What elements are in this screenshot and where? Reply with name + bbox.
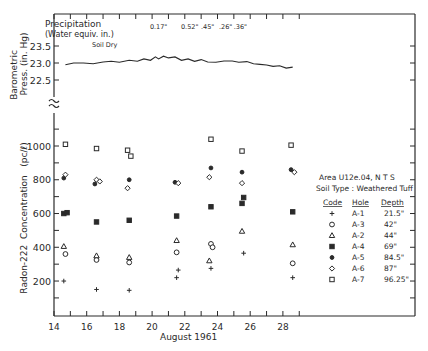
- triangle-marker: [290, 242, 295, 247]
- soil-dry-annotation: Soil Dry: [92, 41, 117, 49]
- diamond-marker: [329, 266, 334, 271]
- legend-row: A-469": [330, 242, 397, 251]
- legend-hole: A-3: [352, 220, 365, 229]
- legend-row: A-244": [329, 231, 397, 240]
- triangle-marker: [94, 253, 99, 258]
- precipitation-label: Precipitation: [45, 19, 101, 29]
- axis-break-icon: [49, 100, 59, 108]
- filled-square-marker: [291, 210, 295, 214]
- circle-marker: [330, 222, 335, 227]
- filled-square-marker: [240, 201, 244, 205]
- plus-marker: [241, 251, 246, 256]
- square-marker: [240, 149, 244, 153]
- plus-marker: [127, 288, 132, 293]
- baro-y-tick-label: 23.0: [30, 58, 51, 69]
- x-axis-ticks: 1416182022242628: [48, 311, 299, 332]
- filled-square-marker: [330, 244, 334, 248]
- circle-marker: [210, 245, 215, 250]
- diamond-marker: [207, 175, 212, 180]
- legend-hole: A-5: [352, 253, 365, 262]
- circle-marker: [94, 258, 99, 263]
- filled-square-marker: [174, 214, 178, 218]
- x-tick-label: 14: [48, 322, 60, 332]
- baro-y-axis-label: Barometric: [9, 50, 19, 100]
- baro-y-axis-label-units: Press. (in. Hg): [19, 33, 29, 96]
- circle-marker: [290, 261, 295, 266]
- x-tick-label: 24: [212, 322, 224, 332]
- precipitation-value: 0.17": [150, 23, 167, 31]
- filled-square-marker: [127, 218, 131, 222]
- filled-circle-marker: [330, 256, 334, 260]
- legend: Area U12e.04, N T S Soil Type : Weathere…: [316, 173, 414, 284]
- radon-y-axis-label: Radon-222 Concentration (pc/ℓ): [19, 142, 29, 293]
- plus-marker: [290, 275, 295, 280]
- precipitation-values: 0.17"0.52".45".26".36": [150, 23, 247, 31]
- plus-marker: [209, 266, 214, 271]
- filled-circle-marker: [127, 178, 131, 182]
- radon-y-tick-label: 400: [33, 242, 51, 253]
- legend-rows: A-121.5"A-342"A-244"A-469"A-584.5"A-687"…: [329, 209, 409, 284]
- precipitation-value: .36": [234, 23, 247, 31]
- baro-y-axis-ticks: 23.523.022.5: [30, 41, 59, 86]
- precipitation-value: 0.52": [181, 23, 198, 31]
- x-tick-label: 20: [146, 322, 158, 332]
- triangle-marker: [239, 228, 244, 233]
- precipitation-value: .45": [201, 23, 214, 31]
- plus-marker: [174, 275, 179, 280]
- barometric-pressure-line: [65, 56, 292, 68]
- legend-hole: A-2: [352, 231, 365, 240]
- legend-header-depth: Depth: [381, 198, 404, 207]
- radon-y-tick-label: 200: [33, 276, 51, 287]
- legend-hole: A-7: [352, 275, 365, 284]
- triangle-marker: [329, 233, 334, 238]
- x-tick-label: 22: [179, 322, 190, 332]
- plus-marker: [176, 268, 181, 273]
- filled-circle-marker: [240, 170, 244, 174]
- square-marker: [289, 143, 293, 147]
- radon-y-tick-label: 600: [33, 208, 51, 219]
- baro-y-tick-label: 23.5: [30, 41, 51, 52]
- filled-square-marker: [241, 195, 245, 199]
- plus-marker: [62, 279, 67, 284]
- legend-header-hole: Hole: [352, 198, 369, 207]
- legend-area-title: Area U12e.04, N T S: [319, 173, 395, 182]
- radon-y-tick-label: 1000: [27, 141, 51, 152]
- radon-data-points: [61, 137, 297, 293]
- square-marker: [129, 154, 133, 158]
- precipitation-units-label: (Water equiv. in.): [45, 30, 114, 39]
- legend-hole: A-1: [352, 209, 365, 218]
- circle-marker: [174, 250, 179, 255]
- x-tick-label: 16: [81, 322, 93, 332]
- legend-row: A-687": [329, 264, 397, 273]
- chart-canvas: 1416182022242628 23.523.022.5 2004006008…: [0, 0, 428, 351]
- x-tick-label: 26: [244, 322, 256, 332]
- filled-square-marker: [65, 210, 69, 214]
- triangle-marker: [127, 255, 132, 260]
- baro-y-tick-label: 22.5: [30, 75, 51, 86]
- legend-header-code: Code: [323, 198, 343, 207]
- legend-row: A-584.5": [330, 253, 404, 262]
- legend-hole: A-6: [352, 264, 365, 273]
- legend-depth: 21.5": [384, 209, 404, 218]
- legend-depth: 84.5": [384, 253, 404, 262]
- filled-square-marker: [209, 205, 213, 209]
- filled-square-marker: [94, 220, 98, 224]
- legend-row: A-342": [330, 220, 397, 229]
- filled-circle-marker: [209, 166, 213, 170]
- square-marker: [94, 146, 98, 150]
- legend-soil-type: Soil Type : Weathered Tuff: [316, 184, 414, 193]
- legend-depth: 96.25": [384, 275, 409, 284]
- precipitation-value: .26": [219, 23, 232, 31]
- triangle-marker: [174, 238, 179, 243]
- square-marker: [63, 142, 67, 146]
- square-marker: [125, 148, 129, 152]
- plus-marker: [94, 287, 99, 292]
- legend-depth: 44": [384, 231, 397, 240]
- legend-row: A-121.5": [330, 209, 404, 218]
- x-axis-label: August 1961: [160, 332, 217, 342]
- legend-hole: A-4: [352, 242, 365, 251]
- square-marker: [330, 277, 334, 281]
- legend-depth: 87": [384, 264, 397, 273]
- legend-depth: 42": [384, 220, 397, 229]
- x-tick-label: 28: [277, 322, 289, 332]
